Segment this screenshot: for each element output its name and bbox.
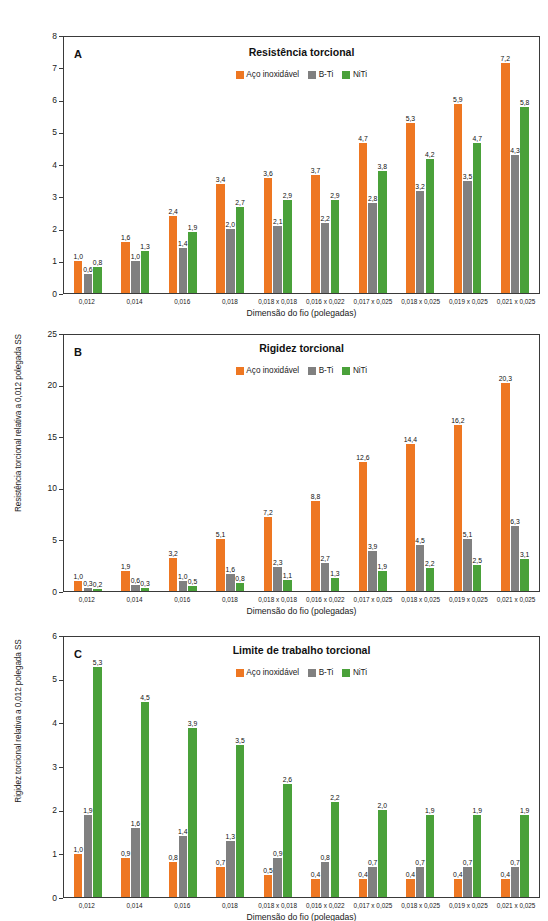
bar-slot: 1,4 xyxy=(179,637,188,897)
bar-stainless[interactable]: 3,2 xyxy=(169,558,178,591)
bar-stainless[interactable]: 3,6 xyxy=(264,178,273,293)
bar-niti[interactable]: 0,8 xyxy=(93,267,102,293)
bar-niti[interactable]: 1,9 xyxy=(188,232,197,293)
bar-bti[interactable]: 1,0 xyxy=(131,261,140,293)
bar-bti[interactable]: 0,8 xyxy=(321,862,330,897)
bar-niti[interactable]: 0,3 xyxy=(141,588,150,591)
bar-bti[interactable]: 0,7 xyxy=(463,867,472,897)
bar-bti[interactable]: 3,5 xyxy=(463,181,472,293)
bar-bti[interactable]: 2,3 xyxy=(273,567,282,591)
bar-stainless[interactable]: 0,4 xyxy=(406,879,415,896)
bar-stainless[interactable]: 20,3 xyxy=(501,383,510,591)
bar-stainless[interactable]: 0,8 xyxy=(169,862,178,897)
bar-niti[interactable]: 3,8 xyxy=(378,171,387,292)
bar-stainless[interactable]: 2,4 xyxy=(169,216,178,293)
bar-bti[interactable]: 3,9 xyxy=(368,551,377,591)
bar-bti[interactable]: 1,6 xyxy=(131,828,140,897)
bar-bti[interactable]: 1,3 xyxy=(226,841,235,897)
bar-stainless[interactable]: 0,4 xyxy=(359,879,368,896)
bar-niti[interactable]: 0,2 xyxy=(93,589,102,591)
bar-stainless[interactable]: 0,4 xyxy=(454,879,463,896)
bar-stainless[interactable]: 16,2 xyxy=(454,425,463,591)
bar-bti[interactable]: 1,0 xyxy=(179,581,188,591)
bar-niti[interactable]: 5,3 xyxy=(93,667,102,896)
bar-stainless[interactable]: 5,1 xyxy=(216,539,225,591)
bar-stainless[interactable]: 4,7 xyxy=(359,143,368,293)
bar-stainless[interactable]: 0,9 xyxy=(121,858,130,897)
bar-niti[interactable]: 0,5 xyxy=(188,586,197,591)
bar-niti[interactable]: 1,1 xyxy=(283,580,292,591)
bar-stainless[interactable]: 1,0 xyxy=(74,261,83,293)
bar-bti[interactable]: 1,6 xyxy=(226,574,235,590)
bar-slot: 2,7 xyxy=(321,335,330,591)
bar-niti[interactable]: 2,6 xyxy=(283,784,292,896)
bar-stainless[interactable]: 5,9 xyxy=(454,104,463,293)
bar-bti[interactable]: 0,9 xyxy=(273,858,282,897)
bar-stainless[interactable]: 8,8 xyxy=(311,501,320,591)
bar-bti[interactable]: 0,6 xyxy=(84,274,93,293)
bar-bti[interactable]: 0,6 xyxy=(131,585,140,591)
bar-bti[interactable]: 3,2 xyxy=(416,191,425,293)
bar-niti[interactable]: 0,8 xyxy=(236,583,245,591)
bar-niti[interactable]: 2,9 xyxy=(331,200,340,293)
bar-niti[interactable]: 1,9 xyxy=(473,815,482,897)
bar-bti[interactable]: 6,3 xyxy=(511,526,520,590)
bar-bti[interactable]: 0,7 xyxy=(368,867,377,897)
y-tick-label: 2 xyxy=(33,805,57,815)
bar-bti[interactable]: 4,3 xyxy=(511,155,520,292)
bar-stainless[interactable]: 3,7 xyxy=(311,175,320,293)
bar-niti[interactable]: 1,9 xyxy=(520,815,529,897)
bar-value-label: 8,8 xyxy=(311,493,320,500)
bar-niti[interactable]: 3,5 xyxy=(236,745,245,896)
bar-niti[interactable]: 4,5 xyxy=(141,702,150,897)
bar-stainless[interactable]: 1,0 xyxy=(74,854,83,897)
bar-stainless[interactable]: 1,9 xyxy=(121,571,130,590)
bar-bti[interactable]: 2,1 xyxy=(273,226,282,293)
bar-niti[interactable]: 1,3 xyxy=(141,251,150,293)
bar-niti[interactable]: 2,9 xyxy=(283,200,292,293)
bar-stainless[interactable]: 0,7 xyxy=(216,867,225,897)
bar-stainless[interactable]: 0,4 xyxy=(501,879,510,896)
bar-value-label: 2,4 xyxy=(168,208,177,215)
bar-stainless[interactable]: 0,4 xyxy=(311,879,320,896)
bar-bti[interactable]: 0,7 xyxy=(511,867,520,897)
bar-bti[interactable]: 0,7 xyxy=(416,867,425,897)
bar-stainless[interactable]: 7,2 xyxy=(501,63,510,293)
bar-value-label: 2,9 xyxy=(330,192,339,199)
bar-stainless[interactable]: 3,4 xyxy=(216,184,225,293)
bar-bti[interactable]: 2,7 xyxy=(321,563,330,591)
bar-stainless[interactable]: 12,6 xyxy=(359,462,368,591)
bar-niti[interactable]: 2,2 xyxy=(331,802,340,897)
bar-niti[interactable]: 2,0 xyxy=(378,810,387,897)
bar-stainless[interactable]: 1,6 xyxy=(121,242,130,293)
bar-niti[interactable]: 1,3 xyxy=(331,578,340,591)
bar-bti[interactable]: 0,3 xyxy=(84,588,93,591)
bar-group: 0,40,71,9 xyxy=(444,637,491,897)
y-tick-mark xyxy=(59,230,63,231)
bar-slot: 0,3 xyxy=(84,335,93,591)
bar-niti[interactable]: 1,9 xyxy=(378,571,387,590)
bar-niti[interactable]: 3,1 xyxy=(520,559,529,591)
bar-bti[interactable]: 5,1 xyxy=(463,539,472,591)
bar-bti[interactable]: 1,4 xyxy=(179,248,188,293)
bar-stainless[interactable]: 14,4 xyxy=(406,444,415,591)
bar-bti[interactable]: 2,0 xyxy=(226,229,235,293)
bar-niti[interactable]: 5,8 xyxy=(520,107,529,292)
bar-value-label: 2,6 xyxy=(283,776,292,783)
bar-niti[interactable]: 2,5 xyxy=(473,565,482,591)
bar-niti[interactable]: 1,9 xyxy=(426,815,435,897)
bar-stainless[interactable]: 7,2 xyxy=(264,517,273,591)
bar-niti[interactable]: 4,7 xyxy=(473,143,482,293)
bar-bti[interactable]: 1,4 xyxy=(179,836,188,897)
bar-bti[interactable]: 1,9 xyxy=(84,815,93,897)
bar-bti[interactable]: 2,8 xyxy=(368,203,377,292)
bar-niti[interactable]: 2,7 xyxy=(236,207,245,293)
bar-niti[interactable]: 3,9 xyxy=(188,728,197,897)
bar-bti[interactable]: 4,5 xyxy=(416,545,425,591)
bar-bti[interactable]: 2,2 xyxy=(321,223,330,293)
bar-stainless[interactable]: 1,0 xyxy=(74,581,83,591)
bar-stainless[interactable]: 0,5 xyxy=(264,875,273,897)
bar-stainless[interactable]: 5,3 xyxy=(406,123,415,292)
bar-niti[interactable]: 2,2 xyxy=(426,568,435,590)
bar-niti[interactable]: 4,2 xyxy=(426,159,435,293)
